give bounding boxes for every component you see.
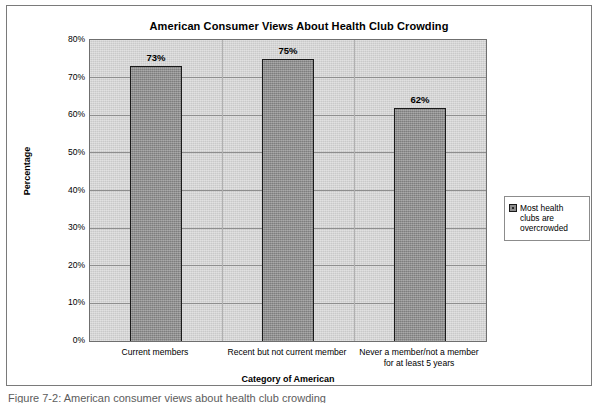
bar-value-label: 62% — [390, 94, 450, 105]
y-tick-label: 80% — [43, 34, 85, 44]
x-tick-label-line: Current members — [83, 347, 227, 358]
y-tick-label: 60% — [43, 109, 85, 119]
x-tick-label: Never a member/not a memberfor at least … — [347, 347, 491, 369]
chart-legend: Most health clubs are overcrowded — [504, 196, 590, 241]
x-tick-label-line: for at least 5 years — [347, 358, 491, 369]
x-tick-label: Recent but not current member — [215, 347, 359, 358]
y-tick-label: 70% — [43, 72, 85, 82]
legend-item[interactable]: Most health clubs are overcrowded — [509, 203, 585, 233]
figure-caption: Figure 7-2: American consumer views abou… — [8, 392, 428, 403]
y-tick-label: 10% — [43, 297, 85, 307]
plot-area: 73%75%62% — [89, 39, 487, 342]
y-tick-label: 50% — [43, 147, 85, 157]
chart-title: American Consumer Views About Health Clu… — [7, 20, 591, 32]
x-axis-title: Category of American — [89, 374, 487, 384]
legend-label: Most health clubs are overcrowded — [520, 203, 585, 233]
figure-frame: American Consumer Views About Health Clu… — [6, 5, 592, 386]
y-tick-label: 30% — [43, 222, 85, 232]
y-tick-label: 20% — [43, 260, 85, 270]
x-tick-label-line: Recent but not current member — [215, 347, 359, 358]
category-separator — [222, 40, 223, 341]
x-tick-label-line: Never a member/not a member — [347, 347, 491, 358]
category-separator — [354, 40, 355, 341]
y-axis-tick-labels: 0%10%20%30%40%50%60%70%80% — [37, 39, 85, 342]
bar-value-label: 73% — [126, 52, 186, 63]
y-axis-title: Percentage — [22, 121, 32, 221]
y-tick-label: 40% — [43, 185, 85, 195]
bar-value-label: 75% — [258, 45, 318, 56]
bar[interactable] — [394, 108, 446, 342]
bar[interactable] — [130, 66, 182, 342]
bar[interactable] — [262, 59, 314, 342]
x-tick-label: Current members — [83, 347, 227, 358]
legend-swatch-icon — [509, 204, 517, 212]
y-tick-label: 0% — [43, 335, 85, 345]
